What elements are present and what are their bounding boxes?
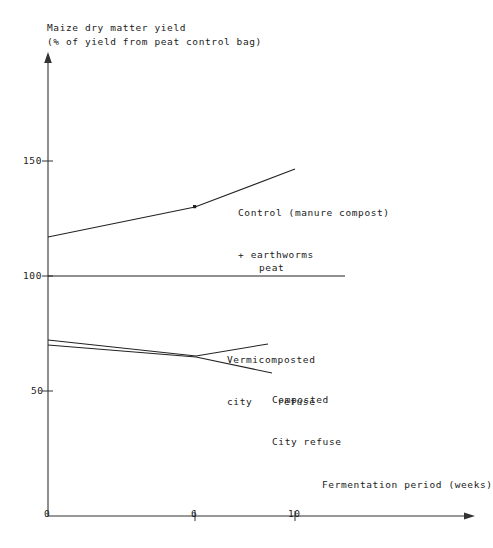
y-axis-tick-label-150: 150 [23,155,42,166]
series-label-control-line-2: + earthworms [238,248,390,262]
x-axis-tick-label-0: 0 [44,508,50,519]
x-axis-tick-label-10: 10 [288,508,301,519]
y-axis-tick-label-50: 50 [31,385,44,396]
y-axis-title-line-2: (% of yield from peat control bag) [47,36,262,47]
y-axis-title-line-1: Maize dry matter yield [47,22,186,33]
y-axis-tick-label-100: 100 [23,270,42,281]
x-axis-tick-label-6: 6 [191,508,197,519]
x-axis-title: Fermentation period (weeks) [322,479,493,490]
x-axis [48,512,475,519]
y-axis [44,52,52,516]
series-label-composted-city-refuse: Composted City refuse [272,365,342,477]
series-label-peat: peat [259,261,284,275]
series-label-composted-line-2: City refuse [272,435,342,449]
data-point-marker-control-6w [193,205,196,208]
series-label-control-line-1: Control (manure compost) [238,206,390,220]
series-label-composted-line-1: Composted [272,393,342,407]
